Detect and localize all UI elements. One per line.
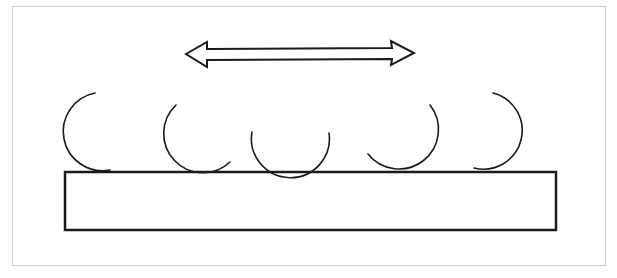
base-platform (65, 172, 556, 230)
rolling-arcs-diagram (0, 0, 617, 278)
arc-2 (164, 105, 230, 173)
arc-4 (368, 105, 439, 169)
double-arrow-icon (186, 41, 414, 67)
arc-5 (474, 93, 522, 169)
arc-1 (63, 93, 110, 171)
